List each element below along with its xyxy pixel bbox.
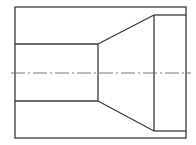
drawing-canvas [0,0,196,145]
section-drawing [0,0,196,145]
taper-bottom-line [98,101,154,131]
taper-top-line [98,15,154,44]
outer-outline [15,7,186,138]
